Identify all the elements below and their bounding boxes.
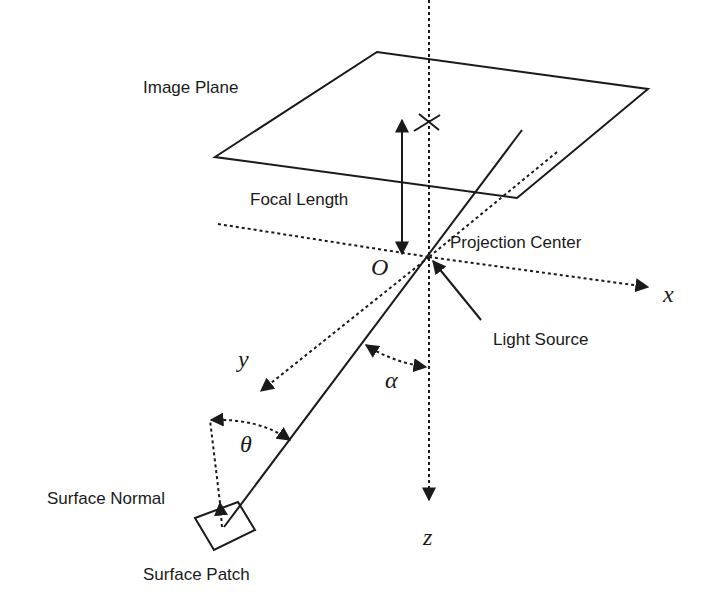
image-plane-label: Image Plane [143,78,238,97]
image-point-cross-icon [414,114,440,131]
surface-normal-arrow [220,503,222,527]
surface-patch-label: Surface Patch [143,565,250,584]
projection-center-label: Projection Center [450,233,582,252]
y-axis-label: y [236,346,249,372]
shape-from-shading-diagram: Image Plane Focal Length Projection Cent… [0,0,703,613]
theta-label: θ [240,431,252,457]
light-source-label: Light Source [493,330,588,349]
surface-normal-label: Surface Normal [47,489,165,508]
origin-label: O [371,254,388,280]
x-axis [429,257,648,287]
y-axis [261,257,429,391]
diagram-svg: Image Plane Focal Length Projection Cent… [0,0,703,613]
x-axis-label: x [662,281,674,307]
alpha-angle-arc [366,345,426,367]
alpha-label: α [385,367,398,393]
z-axis-label: z [422,524,433,550]
surface-normal-line [210,420,220,503]
light-source-pointer [433,261,481,320]
focal-length-label: Focal Length [250,190,348,209]
x-axis-back [218,224,429,257]
